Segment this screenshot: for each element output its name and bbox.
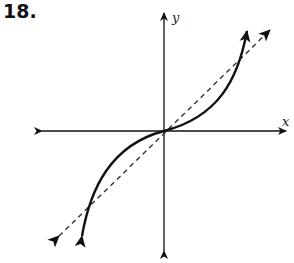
graph: x y [0, 0, 294, 263]
x-axis-label: x [282, 114, 290, 129]
y-axis-label: y [171, 10, 180, 25]
